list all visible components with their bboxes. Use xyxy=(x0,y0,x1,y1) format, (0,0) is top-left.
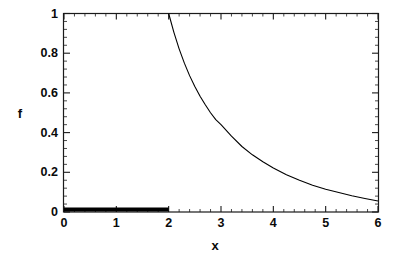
y-axis-label: f xyxy=(10,106,30,121)
y-tick-label: 0 xyxy=(18,205,58,219)
y-tick-label: 0.8 xyxy=(18,46,58,60)
x-tick-label: 5 xyxy=(322,216,329,230)
x-tick-label: 2 xyxy=(165,216,172,230)
y-tick-label: 0.2 xyxy=(18,165,58,179)
x-tick-label: 0 xyxy=(61,216,68,230)
x-axis-label: x xyxy=(205,238,225,253)
x-tick-label: 4 xyxy=(270,216,277,230)
x-tick-label: 6 xyxy=(375,216,382,230)
y-tick-label: 0.6 xyxy=(18,86,58,100)
plot-frame xyxy=(64,14,379,213)
chart-figure: f x 0123456 00.20.40.60.81 xyxy=(0,0,407,269)
y-tick-label: 0.4 xyxy=(18,126,58,140)
x-tick-label: 1 xyxy=(113,216,120,230)
x-tick-label: 3 xyxy=(218,216,225,230)
y-tick-label: 1 xyxy=(18,7,58,21)
